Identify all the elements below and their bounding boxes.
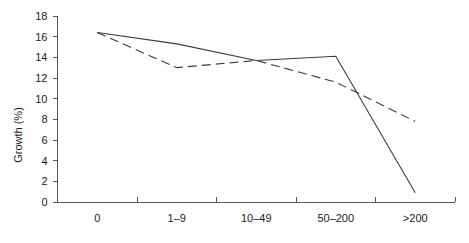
- y-tick-label: 14: [35, 51, 47, 63]
- y-tick-label: 2: [41, 175, 47, 187]
- y-tick-label: 18: [35, 10, 47, 22]
- y-tick-label: 0: [41, 196, 47, 208]
- series-solid-series: [97, 33, 415, 193]
- x-tick-label: 10–49: [241, 212, 272, 224]
- x-tick-label: 50–200: [317, 212, 354, 224]
- series-group: [97, 33, 415, 193]
- y-tick-label: 4: [41, 155, 47, 167]
- series-dashed-series: [97, 33, 415, 122]
- x-tick-group: 01–910–4950–200>200: [58, 197, 456, 224]
- y-tick-label: 10: [35, 93, 47, 105]
- y-tick-label: 16: [35, 31, 47, 43]
- chart-svg: Growth (%) 024681012141618 01–910–4950–2…: [0, 0, 469, 243]
- y-tick-label: 12: [35, 72, 47, 84]
- x-tick-label: >200: [403, 212, 428, 224]
- x-tick-label: 1–9: [168, 212, 186, 224]
- y-tick-label: 6: [41, 134, 47, 146]
- growth-line-chart: Growth (%) 024681012141618 01–910–4950–2…: [0, 0, 469, 243]
- y-tick-group: 024681012141618: [35, 10, 57, 208]
- x-tick-label: 0: [94, 212, 100, 224]
- y-tick-label: 8: [41, 113, 47, 125]
- y-axis-label: Growth (%): [12, 107, 24, 163]
